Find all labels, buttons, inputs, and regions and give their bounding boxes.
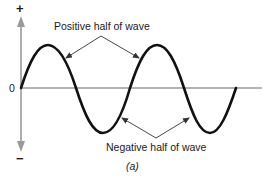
positive-pointers	[66, 36, 139, 58]
plus-label: +	[16, 2, 24, 15]
sine-wave	[21, 45, 236, 133]
negative-pointers	[122, 118, 189, 138]
axis-up-arrow-icon	[17, 16, 25, 27]
figure-caption: (a)	[126, 161, 139, 172]
negative-half-label: Negative half of wave	[106, 142, 206, 153]
minus-label: −	[16, 152, 24, 165]
zero-label: 0	[9, 83, 15, 94]
positive-half-label: Positive half of wave	[54, 21, 150, 32]
